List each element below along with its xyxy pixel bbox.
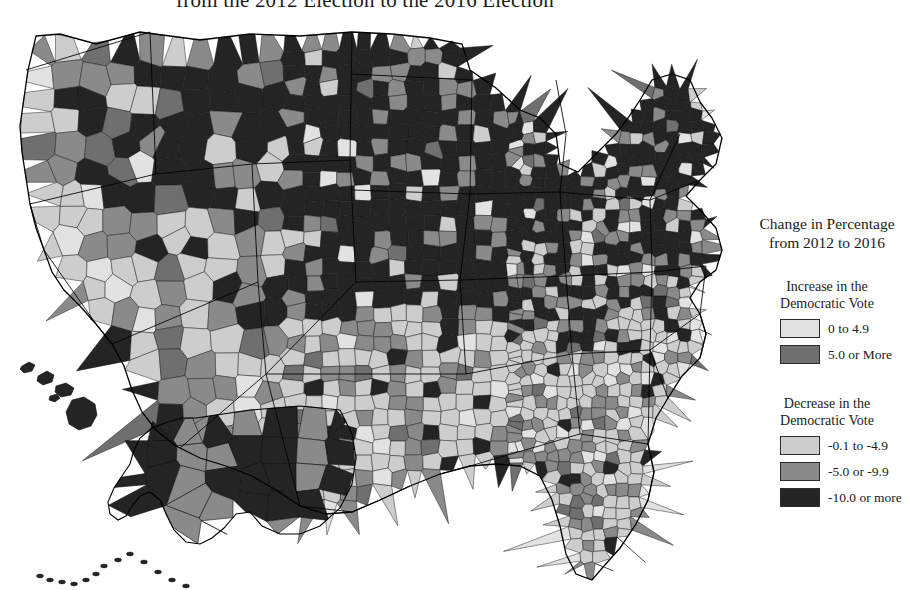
county	[630, 221, 642, 233]
county	[406, 305, 423, 323]
county	[159, 349, 188, 380]
legend-swatch	[780, 462, 820, 481]
county	[456, 439, 474, 456]
county	[357, 320, 376, 336]
county	[455, 125, 474, 141]
county	[183, 66, 209, 90]
county	[357, 484, 373, 505]
island	[101, 564, 108, 568]
county	[523, 320, 534, 331]
county	[619, 287, 630, 298]
county	[491, 217, 508, 232]
county	[323, 380, 340, 397]
county	[322, 33, 340, 52]
county	[411, 36, 424, 49]
county	[357, 32, 371, 50]
county	[372, 408, 388, 425]
county	[304, 215, 321, 232]
legend-item: -0.1 to -4.9	[780, 434, 912, 457]
county	[494, 455, 510, 488]
legend-item: 0 to 4.9	[780, 317, 912, 340]
county	[160, 66, 186, 91]
legend-increase-head-line1: Increase in the	[742, 278, 912, 295]
county	[476, 274, 493, 292]
county	[422, 111, 443, 127]
county	[490, 410, 509, 427]
county	[21, 132, 56, 160]
county	[338, 186, 355, 202]
county	[491, 426, 508, 441]
county	[28, 182, 63, 206]
county	[582, 308, 596, 320]
county	[439, 216, 457, 231]
county	[373, 154, 390, 172]
county	[641, 177, 656, 187]
county	[641, 474, 671, 487]
legend-group-increase: Increase in the Democratic Vote 0 to 4.9…	[742, 278, 912, 366]
county	[595, 564, 613, 571]
county	[475, 230, 492, 246]
county	[320, 334, 339, 353]
island-kauai	[20, 362, 35, 373]
county	[524, 261, 534, 275]
county	[572, 275, 584, 286]
county	[639, 497, 684, 515]
county	[522, 429, 537, 439]
county	[180, 299, 210, 329]
legend-item: -10.0 or more	[780, 486, 912, 509]
county	[556, 504, 571, 516]
county	[618, 395, 630, 408]
county	[370, 214, 389, 232]
county	[476, 320, 493, 334]
county	[473, 73, 496, 95]
county	[545, 242, 559, 253]
legend-heading-line1: Change in Percentage	[742, 214, 912, 233]
county	[680, 59, 698, 89]
county	[582, 254, 594, 267]
county	[325, 438, 355, 466]
county	[284, 35, 302, 52]
county	[640, 98, 656, 110]
county	[491, 247, 508, 263]
county	[339, 379, 356, 396]
county	[668, 265, 681, 277]
county	[570, 418, 582, 429]
county	[201, 521, 227, 535]
island-molokai	[49, 394, 60, 402]
county	[337, 500, 359, 535]
county	[475, 154, 492, 169]
county	[388, 137, 407, 156]
county	[439, 78, 458, 96]
county	[458, 305, 477, 320]
county	[255, 181, 284, 209]
county	[490, 94, 505, 113]
county	[374, 308, 392, 323]
county	[603, 508, 617, 519]
legend-swatch-label: -10.0 or more	[828, 490, 902, 505]
county	[354, 261, 373, 278]
legend-swatch-label: -5.0 or -9.9	[828, 464, 889, 479]
county	[338, 229, 359, 247]
county	[475, 200, 493, 215]
county	[492, 306, 509, 322]
county	[52, 60, 83, 90]
county	[678, 230, 691, 243]
county	[304, 230, 322, 247]
county	[676, 89, 689, 102]
county	[422, 186, 441, 202]
county	[490, 350, 509, 366]
county	[534, 264, 545, 275]
county	[373, 322, 393, 337]
county	[455, 289, 476, 305]
county	[371, 66, 392, 83]
county	[506, 256, 522, 264]
county	[490, 137, 509, 154]
county	[441, 109, 459, 127]
county	[305, 303, 321, 320]
county	[321, 216, 339, 233]
county	[628, 209, 641, 222]
county	[371, 95, 390, 110]
island-hawaii	[66, 397, 97, 430]
county	[456, 259, 474, 276]
county	[337, 64, 356, 81]
